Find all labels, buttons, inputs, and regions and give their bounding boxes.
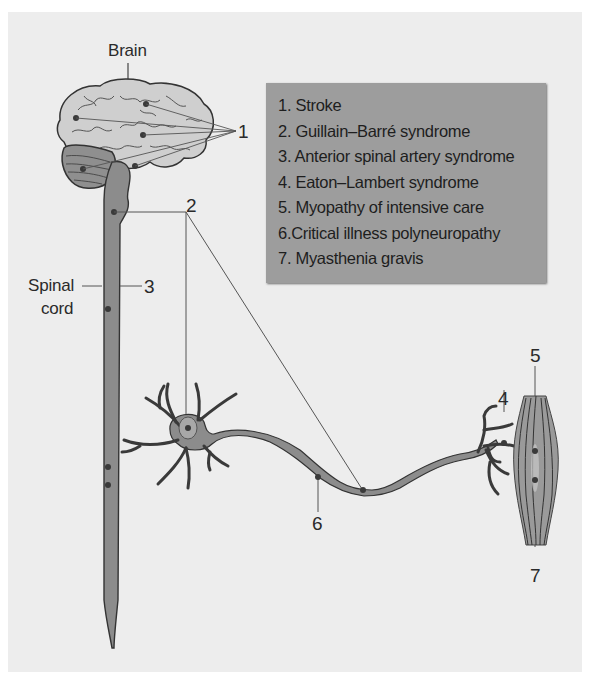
legend-item: 4. Eaton–Lambert syndrome — [278, 170, 546, 196]
legend-item: 3. Anterior spinal artery syndrome — [278, 144, 546, 170]
marker-1-label: 1 — [238, 122, 248, 141]
legend-box: 1. Stroke 2. Guillain–Barré syndrome 3. … — [266, 83, 546, 283]
marker-5-label: 5 — [530, 346, 540, 365]
legend-list: 1. Stroke 2. Guillain–Barré syndrome 3. … — [266, 83, 546, 272]
legend-item: 5. Myopathy of intensive care — [278, 195, 546, 221]
marker-6-label: 6 — [312, 514, 322, 533]
brain-label: Brain — [108, 42, 147, 59]
marker-7-label: 7 — [530, 566, 540, 585]
brain-illustration — [57, 63, 236, 648]
marker-2-label: 2 — [186, 196, 196, 215]
muscle-illustration — [514, 396, 559, 545]
marker-3-label: 3 — [144, 277, 154, 296]
spinal-cord-label-line1: Spinal — [28, 277, 74, 294]
marker-4-label: 4 — [498, 389, 508, 408]
legend-item: 7. Myasthenia gravis — [278, 246, 546, 272]
neuron-illustration — [122, 384, 514, 496]
legend-item: 1. Stroke — [278, 93, 546, 119]
spinal-cord-label-line2: cord — [41, 300, 73, 317]
legend-item: 2. Guillain–Barré syndrome — [278, 119, 546, 145]
legend-item: 6.Critical illness polyneuropathy — [278, 221, 546, 247]
